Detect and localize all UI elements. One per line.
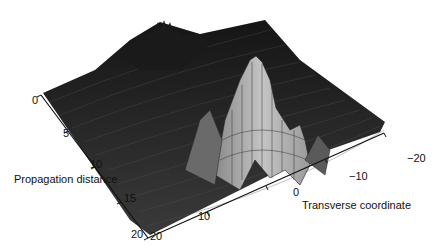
surface-plot — [0, 0, 436, 250]
y-axis-title: Propagation distance — [14, 173, 117, 185]
x-tick-m20: −20 — [407, 152, 426, 164]
x-axis-title: Transverse coordinate — [302, 199, 411, 211]
x-tick-10: 10 — [198, 210, 210, 222]
y-tick-0: 0 — [32, 94, 38, 106]
x-tick-m10: −10 — [349, 170, 368, 182]
x-tick-0: 0 — [293, 186, 299, 198]
y-tick-15: 15 — [124, 192, 136, 204]
y-tick-10: 10 — [90, 158, 102, 170]
x-tick-20: 20 — [150, 230, 162, 242]
y-tick-20: 20 — [131, 228, 143, 240]
y-tick-5: 5 — [63, 127, 69, 139]
